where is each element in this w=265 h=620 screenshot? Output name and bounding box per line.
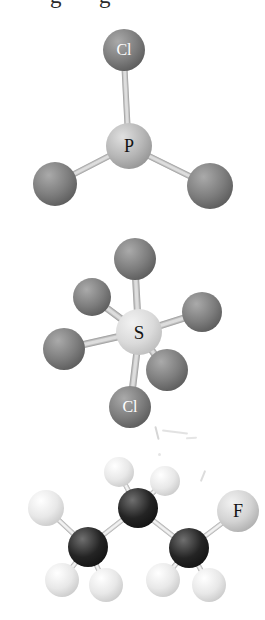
atom-H-top-left: [104, 457, 134, 487]
atom-H-bottom-mid-2: [146, 563, 180, 597]
pencil-smudge-3: [158, 453, 161, 456]
atom-C-left: [68, 527, 108, 567]
atom-label-F: F: [233, 502, 243, 520]
figure-canvas: gg ClPSClF: [0, 0, 265, 620]
atom-C-right: [169, 528, 209, 568]
atom-H-top-right: [150, 466, 180, 496]
atom-H-bottom-right: [192, 568, 226, 602]
atom-H-bottom-left: [45, 563, 79, 597]
atom-C-center: [118, 488, 158, 528]
atom-H-far-left: [28, 490, 64, 526]
atom-F-right: F: [217, 490, 259, 532]
molecule-fluoropropane: F: [0, 0, 265, 620]
atom-H-bottom-mid-1: [89, 568, 123, 602]
